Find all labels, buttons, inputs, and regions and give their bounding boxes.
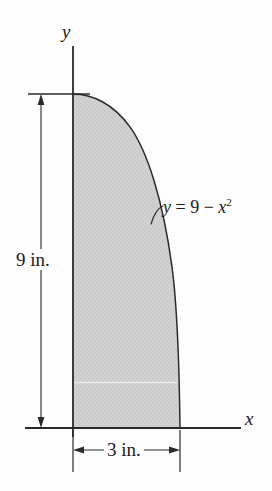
equation-y-variable: y <box>163 197 171 217</box>
width-arrow-left <box>73 447 84 454</box>
y-axis-label: y <box>62 22 70 41</box>
equation-exponent: 2 <box>226 196 232 208</box>
width-arrow-right <box>169 447 180 454</box>
curve-equation-label: y = 9 − x2 <box>163 198 232 216</box>
height-arrow-top <box>38 94 45 105</box>
height-arrow-bottom <box>38 417 45 428</box>
equation-constant: 9 <box>190 197 199 217</box>
figure-canvas: y x 9 in. 3 in. y = 9 − x2 <box>0 0 272 491</box>
x-axis-label: x <box>245 409 253 428</box>
figure-graphics <box>0 0 272 491</box>
width-dimension-label: 3 in. <box>104 440 144 459</box>
equation-equals: = <box>176 197 186 217</box>
equation-minus: − <box>204 197 214 217</box>
height-dimension-label: 9 in. <box>14 249 52 270</box>
